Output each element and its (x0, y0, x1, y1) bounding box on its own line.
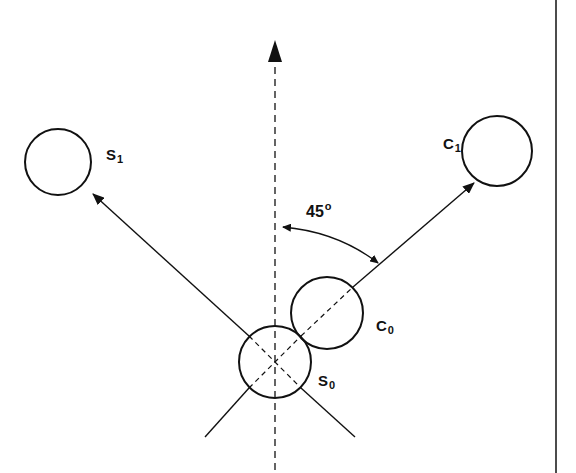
label-c0-sub: 0 (388, 324, 394, 336)
circle-s1 (25, 129, 91, 195)
collision-diagram (0, 0, 576, 473)
label-s0: S0 (318, 373, 335, 391)
label-c0: C0 (376, 318, 394, 336)
incoming-line-right (301, 388, 355, 437)
label-c1-sub: 1 (455, 142, 461, 154)
label-angle: 45o (306, 201, 332, 220)
angle-arc (283, 227, 378, 263)
label-s1-sub: 1 (117, 153, 123, 165)
c0-dashed-path (301, 287, 353, 336)
axis-arrow-icon (268, 40, 282, 62)
angle-value: 45 (306, 203, 324, 220)
label-c1: C1 (443, 136, 461, 154)
label-c1-letter: C (443, 135, 454, 152)
label-s0-sub: 0 (329, 379, 335, 391)
label-c0-letter: C (376, 317, 387, 334)
circle-c1 (462, 116, 532, 186)
c-trajectory-arrow (353, 183, 474, 287)
s-trajectory-arrow (93, 194, 249, 336)
degree-symbol: o (325, 200, 332, 212)
incoming-line-left (205, 388, 249, 437)
label-s0-letter: S (318, 372, 328, 389)
label-s1-letter: S (106, 146, 116, 163)
label-s1: S1 (106, 147, 123, 165)
